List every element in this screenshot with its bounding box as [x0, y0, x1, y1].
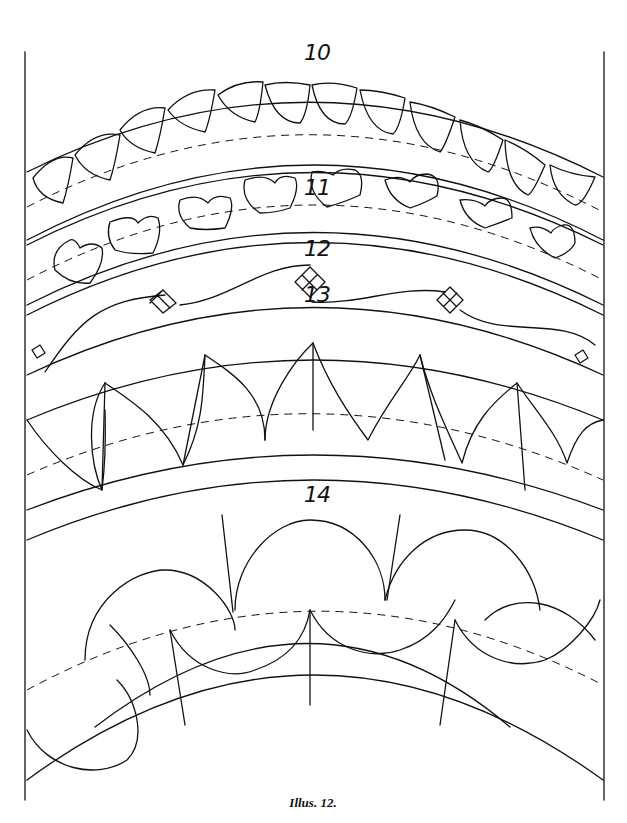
pattern-10: [27, 82, 603, 240]
illustration-sheet: 10 11 12 13 14 Illus. 12.: [0, 0, 627, 823]
border-patterns-drawing: [0, 0, 627, 823]
pattern-12: [27, 243, 603, 376]
pattern-number-11: 11: [304, 175, 330, 200]
pattern-number-13: 13: [304, 282, 330, 307]
pattern-number-12: 12: [304, 236, 330, 261]
pattern-number-10: 10: [304, 40, 330, 65]
figure-caption: Illus. 12.: [289, 795, 336, 811]
pattern-number-14: 14: [304, 482, 330, 507]
pattern-14: [27, 480, 603, 780]
